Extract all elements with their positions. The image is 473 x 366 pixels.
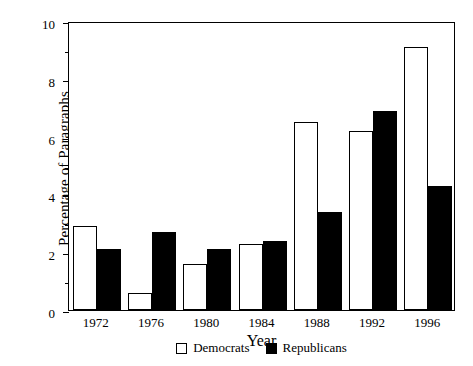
bar-republicans-1984 [263,241,287,310]
x-tick-label: 1976 [138,315,164,331]
y-tick-minor [65,168,69,169]
bar-democrats-1996 [404,47,428,310]
bar-republicans-1988 [318,212,342,310]
x-tick-label: 1972 [83,315,109,331]
y-tick-major: 10 [63,23,69,24]
y-tick-label: 0 [49,307,56,320]
y-tick-major: 6 [63,139,69,140]
x-tick-label: 1996 [414,315,440,331]
y-tick-label: 8 [49,75,56,88]
x-tick-label: 1992 [359,315,385,331]
bar-democrats-1976 [128,293,152,310]
x-tick-label: 1984 [249,315,275,331]
y-tick-major: 2 [63,254,69,255]
bar-republicans-1980 [207,249,231,310]
bar-democrats-1972 [73,226,97,310]
x-tick-label: 1980 [193,315,219,331]
bar-democrats-1980 [183,264,207,310]
y-tick-major: 8 [63,81,69,82]
y-tick-label: 6 [49,133,56,146]
legend-label: Republicans [283,340,347,356]
x-tick-label: 1988 [304,315,330,331]
plot-area: 0246810 [68,22,455,311]
bar-chart: Percentage of Paragraphs 0246810 1972197… [0,0,473,366]
y-tick-label: 10 [42,18,55,31]
bar-republicans-1976 [152,232,176,310]
chart-legend: DemocratsRepublicans [68,340,455,356]
bar-republicans-1992 [373,111,397,310]
legend-item-republicans: Republicans [266,340,347,356]
y-tick-major: 0 [63,312,69,313]
bar-democrats-1984 [239,244,263,310]
y-tick-minor [65,110,69,111]
bar-republicans-1996 [428,186,452,310]
legend-swatch-democrats [176,343,187,354]
legend-item-democrats: Democrats [176,340,249,356]
y-tick-minor [65,225,69,226]
y-tick-major: 4 [63,196,69,197]
y-tick-minor [65,52,69,53]
bar-republicans-1972 [97,249,121,310]
y-tick-label: 4 [49,191,56,204]
bar-democrats-1988 [294,122,318,310]
legend-swatch-republicans [266,343,277,354]
y-tick-label: 2 [49,249,56,262]
bar-democrats-1992 [349,131,373,310]
legend-label: Democrats [193,340,249,356]
bars-layer [69,23,454,310]
y-tick-minor [65,283,69,284]
